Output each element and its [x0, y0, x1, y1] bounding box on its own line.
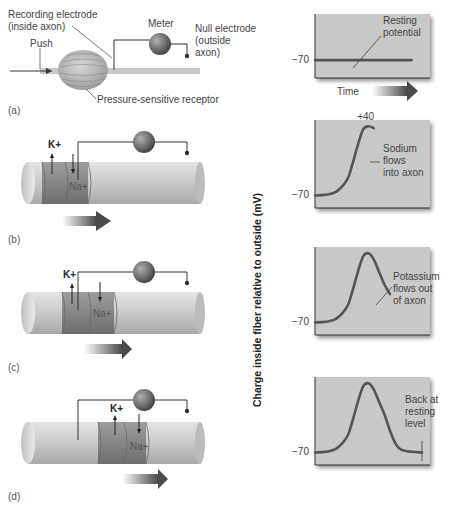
- meter-label: Meter: [148, 18, 174, 29]
- recording-electrode-label-line1: Recording electrode: [8, 9, 98, 20]
- null-electrode-label-line1: Null electrode: [195, 23, 257, 34]
- peak-label: +40: [357, 111, 374, 122]
- chart-annotation: Potassium: [393, 271, 440, 282]
- null-electrode: [185, 151, 189, 155]
- k-ion-label: K+: [63, 269, 76, 280]
- null-electrode: [185, 281, 189, 285]
- chart-annotation: potential: [383, 27, 421, 38]
- meter-icon: [133, 131, 155, 153]
- axon-cylinder: [21, 162, 205, 204]
- time-arrow: [372, 86, 407, 96]
- k-ion-label: K+: [110, 403, 123, 414]
- chart-annotation: level: [405, 418, 426, 429]
- null-electrode: [185, 54, 189, 58]
- propagation-arrow: [122, 474, 158, 484]
- panel-c: K+ Na+ (c): [8, 261, 205, 373]
- chart-annotation: into axon: [383, 167, 424, 178]
- y-tick-label: −70: [292, 54, 309, 65]
- action-potential-figure: Push Recording electrode (inside axon) M…: [0, 0, 471, 509]
- axon-cylinder: [21, 422, 205, 464]
- null-electrode-label-line2: (outside: [195, 35, 231, 46]
- chart-annotation: resting: [405, 406, 435, 417]
- propagation-arrow: [62, 216, 96, 226]
- chart-annotation: Resting: [383, 15, 417, 26]
- meter-icon: [149, 33, 171, 55]
- membrane-potential-charts: −70Restingpotential−70+40Sodiumflowsinto…: [292, 14, 440, 465]
- y-axis-label: Charge inside fiber relative to outside …: [251, 193, 263, 407]
- time-arrowhead: [407, 81, 418, 101]
- panel-label-d: (d): [8, 491, 20, 502]
- chart-4: −70Back atrestinglevel: [292, 377, 439, 465]
- panel-b: K+ Na+ (b): [8, 131, 205, 245]
- y-tick-label: −70: [292, 189, 309, 200]
- chart-1: −70Restingpotential: [292, 14, 430, 78]
- null-electrode-label-line3: axon): [195, 47, 220, 58]
- y-tick-label: −70: [292, 446, 309, 457]
- meter-icon: [133, 261, 155, 283]
- chart-annotation: flows: [383, 155, 406, 166]
- chart-annotation: of axon: [393, 295, 426, 306]
- propagation-arrow: [84, 344, 122, 354]
- null-electrode: [185, 409, 189, 413]
- axon-cylinder: [21, 292, 205, 334]
- chart-annotation: flows out: [393, 283, 433, 294]
- time-axis-label: Time: [337, 86, 359, 97]
- na-ion-label: Na+: [69, 181, 88, 192]
- receptor-label: Pressure-sensitive receptor: [97, 94, 219, 105]
- meter-icon: [133, 389, 155, 411]
- recording-electrode-label-line2: (inside axon): [8, 21, 65, 32]
- chart-3: −70Potassiumflows outof axon: [292, 247, 440, 335]
- panel-label-b: (b): [8, 234, 20, 245]
- push-label: Push: [30, 38, 53, 49]
- chart-annotation: Sodium: [383, 143, 417, 154]
- panel-label-a: (a): [8, 105, 20, 116]
- panel-a: Push Recording electrode (inside axon) M…: [8, 9, 257, 116]
- panel-label-c: (c): [8, 362, 20, 373]
- na-ion-label: Na+: [130, 441, 149, 452]
- na-ion-label: Na+: [93, 308, 112, 319]
- y-tick-label: −70: [292, 316, 309, 327]
- panel-d: K+ Na+ (d): [8, 389, 205, 502]
- pressure-sensitive-receptor: [58, 50, 108, 90]
- chart-2: −70+40Sodiumflowsinto axon: [292, 111, 430, 208]
- chart-annotation: Back at: [405, 394, 439, 405]
- k-ion-label: K+: [48, 139, 61, 150]
